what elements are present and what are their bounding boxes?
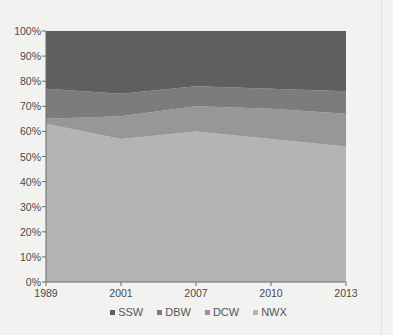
legend-label: SSW xyxy=(118,306,143,318)
y-tick-label: 20% xyxy=(20,226,41,238)
x-tick-label: 2001 xyxy=(109,287,133,299)
y-tick-label: 30% xyxy=(20,201,41,213)
legend-swatch-nwx xyxy=(253,310,258,315)
y-tick-label: 90% xyxy=(20,50,41,62)
y-tick-label: 50% xyxy=(20,151,41,163)
legend-swatch-dbw xyxy=(157,310,162,315)
legend-swatch-ssw xyxy=(110,310,115,315)
legend-label: DBW xyxy=(165,306,191,318)
x-tick-label: 1989 xyxy=(34,287,58,299)
stacked-area-chart: 0%10%20%30%40%50%60%70%80%90%100%1989200… xyxy=(0,0,393,335)
area-nwx xyxy=(46,124,346,282)
area-series-group xyxy=(46,31,346,282)
y-tick-label: 40% xyxy=(20,176,41,188)
legend-item-ssw: SSW xyxy=(106,306,143,318)
y-tick-label: 80% xyxy=(20,75,41,87)
legend-item-nwx: NWX xyxy=(249,306,287,318)
legend-item-dcw: DCW xyxy=(201,306,239,318)
y-tick-label: 100% xyxy=(14,25,41,37)
y-tick-label: 60% xyxy=(20,125,41,137)
legend-label: DCW xyxy=(213,306,239,318)
x-tick-label: 2010 xyxy=(259,287,283,299)
y-tick-label: 10% xyxy=(20,251,41,263)
legend-item-dbw: DBW xyxy=(153,306,191,318)
legend: SSW DBW DCW NWX xyxy=(0,306,393,318)
x-tick-label: 2013 xyxy=(334,287,358,299)
legend-label: NWX xyxy=(261,306,287,318)
x-tick-label: 2007 xyxy=(184,287,208,299)
legend-swatch-dcw xyxy=(205,310,210,315)
y-tick-label: 70% xyxy=(20,100,41,112)
area-ssw xyxy=(46,31,346,94)
